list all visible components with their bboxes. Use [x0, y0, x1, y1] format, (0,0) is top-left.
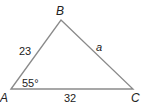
side-label-ac: 32: [64, 92, 76, 104]
vertex-label-c: C: [131, 91, 140, 105]
side-label-bc: a: [96, 41, 102, 53]
vertex-label-a: A: [0, 91, 8, 105]
side-label-ab: 23: [19, 45, 31, 57]
angle-label-a: 55°: [22, 77, 39, 89]
vertex-label-b: B: [56, 4, 64, 18]
triangle-diagram: B A C 23 a 32 55°: [0, 0, 161, 111]
